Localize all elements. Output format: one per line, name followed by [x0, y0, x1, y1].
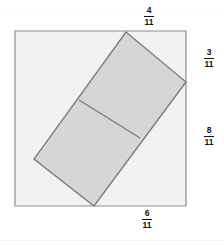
bottom-divider-rule [0, 240, 224, 241]
label-top-fraction: 4 11 [136, 6, 162, 27]
label-top-denominator: 11 [136, 17, 162, 26]
diagram-canvas [0, 0, 224, 245]
label-bottom-fraction: 6 11 [134, 209, 160, 230]
label-right-lower-denominator: 11 [196, 137, 222, 146]
label-right-lower-fraction: 8 11 [196, 126, 222, 147]
label-bottom-denominator: 11 [134, 220, 160, 229]
label-right-upper-fraction: 3 11 [196, 48, 222, 69]
geometry-figure: 4 11 3 11 8 11 6 11 [0, 0, 224, 245]
label-right-lower-numerator: 8 [196, 126, 222, 135]
label-top-numerator: 4 [136, 6, 162, 15]
label-bottom-numerator: 6 [134, 209, 160, 218]
label-right-upper-numerator: 3 [196, 48, 222, 57]
label-right-upper-denominator: 11 [196, 59, 222, 68]
